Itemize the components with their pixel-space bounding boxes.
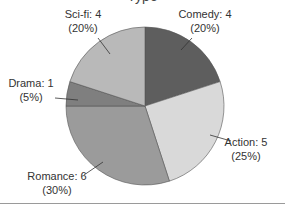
slice-percent-action: (25%): [231, 150, 260, 162]
slice-percent-romance: (30%): [42, 184, 71, 196]
divider-line: [0, 203, 285, 204]
slice-label-action: Action: 5: [225, 136, 268, 148]
slice-label-drama: Drama: 1: [8, 77, 53, 89]
slice-label-comedy: Comedy: 4: [178, 8, 231, 20]
pie-chart: Comedy: 4(20%)Action: 5(25%)Romance: 6(3…: [0, 0, 285, 211]
slice-label-sci-fi: Sci-fi: 4: [65, 8, 102, 20]
slice-label-romance: Romance: 6: [27, 170, 86, 182]
slice-percent-comedy: (20%): [190, 22, 219, 34]
slice-percent-drama: (5%): [19, 91, 42, 103]
slice-percent-sci-fi: (20%): [68, 22, 97, 34]
